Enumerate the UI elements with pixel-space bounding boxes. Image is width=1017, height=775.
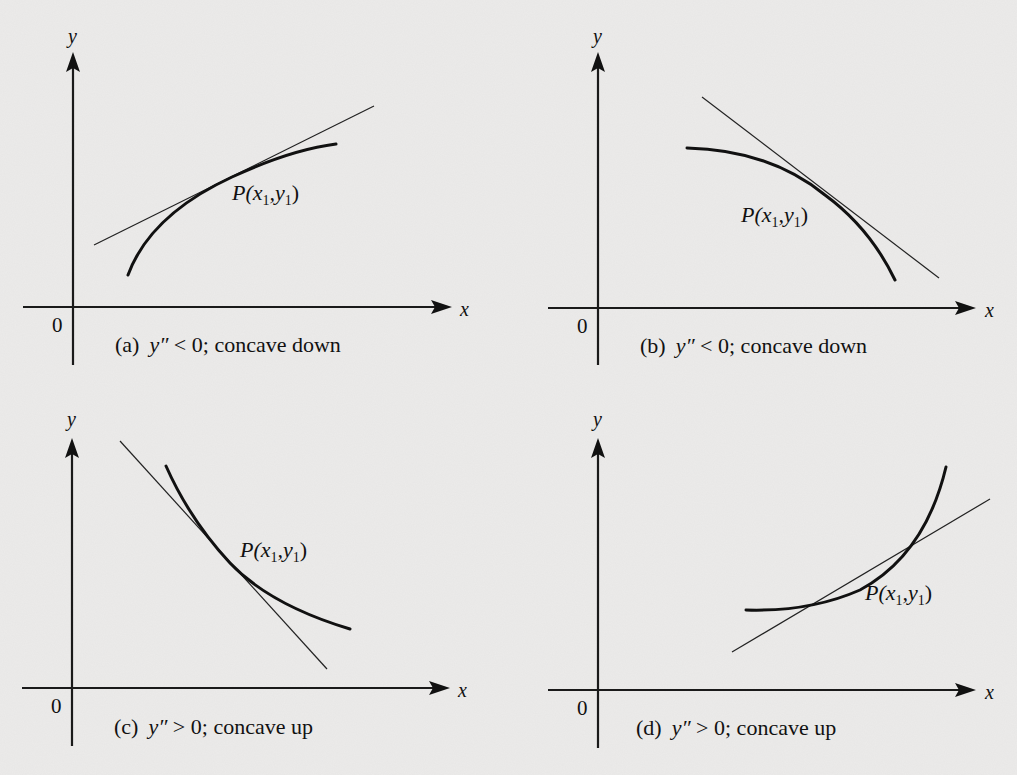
y-axis-label: y [66,25,77,48]
caption: (a)y″ < 0; concave down [115,332,341,357]
y-axis-label: y [591,25,602,48]
origin-label: 0 [577,696,588,720]
y-axis-label: y [591,408,602,431]
x-axis-label: x [984,681,994,703]
origin-label: 0 [51,694,62,718]
origin-label: 0 [52,313,63,337]
y-axis-label: y [65,408,76,431]
x-axis-label: x [984,299,994,321]
x-axis-label: x [457,679,467,701]
x-axis-label: x [459,298,469,320]
origin-label: 0 [577,314,588,338]
concavity-figure: y x 0 P(x1,y1) (a)y″ < 0; concave down y… [0,0,1017,775]
paper-grain [0,0,1017,775]
